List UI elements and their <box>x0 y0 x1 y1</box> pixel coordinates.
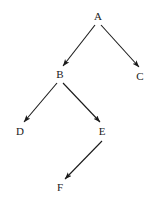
node-a: A <box>94 11 102 22</box>
node-d: D <box>16 126 24 137</box>
edge-a-to-b <box>63 25 95 66</box>
node-e: E <box>99 126 106 137</box>
edges-group <box>24 25 139 179</box>
edge-b-to-d <box>24 83 57 122</box>
tree-diagram: ABCDEF <box>0 0 158 205</box>
edge-layer <box>0 0 158 205</box>
edge-b-to-e <box>63 83 100 122</box>
edge-a-to-c <box>101 25 139 67</box>
node-f: F <box>57 182 63 193</box>
node-b: B <box>56 69 63 80</box>
node-c: C <box>136 71 143 82</box>
edge-e-to-f <box>65 141 102 179</box>
